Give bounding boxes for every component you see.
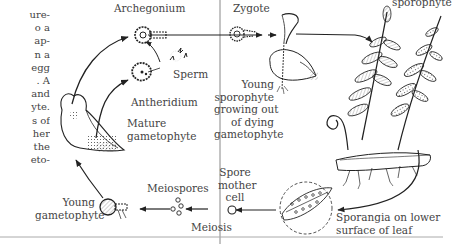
antheridium-drawing <box>132 63 160 81</box>
label-mature-gametophyte: Mature gametophyte <box>127 117 197 142</box>
label-line: Young <box>35 196 95 209</box>
label-young-gametophyte: Young gametophyte <box>35 196 95 221</box>
arrow-gametophyte-to-antheridium <box>96 80 128 138</box>
sporangia-drawing <box>280 182 332 234</box>
label-line: cell <box>218 191 252 204</box>
zygote-drawing <box>230 27 256 41</box>
spore-mother-cell-drawing <box>228 206 236 214</box>
label-meiosis: Meiosis <box>191 221 232 234</box>
label-line: Young <box>214 78 274 91</box>
label-line: Sporangia on lower <box>336 211 440 224</box>
mature-sporophyte-drawing <box>327 6 443 189</box>
label-sperm: Sperm <box>173 68 208 81</box>
label-line: gametophyte <box>35 209 95 222</box>
label-line: gametophyte <box>127 130 197 143</box>
meiospores-drawing <box>171 198 183 215</box>
label-sporangia: Sporangia on lower surface of leaf <box>336 211 440 236</box>
label-archegonium: Archegonium <box>114 2 185 15</box>
sperm-drawing <box>170 48 187 61</box>
label-line: sporophyte <box>214 91 274 104</box>
label-line: growing out <box>214 103 274 116</box>
label-line: gametophyte <box>214 128 274 141</box>
arrow-young-to-mature-gametophyte <box>76 160 103 198</box>
label-spore-mother-cell: Spore mother cell <box>218 166 252 204</box>
young-sporophyte-drawing <box>270 14 318 94</box>
label-line: Spore <box>218 166 252 179</box>
label-meiospores: Meiospores <box>147 182 209 195</box>
arrow-sperm-to-archegonium <box>146 42 160 62</box>
label-antheridium: Antheridium <box>131 96 198 109</box>
arrow-gametophyte-to-archegonium <box>72 37 128 104</box>
label-line: Mature <box>127 117 197 130</box>
label-mature-sporophyte: sporophyte <box>392 0 452 9</box>
label-line: mother <box>218 179 252 192</box>
label-line: surface of leaf <box>336 224 440 237</box>
mature-gametophyte-drawing <box>61 94 124 152</box>
label-line: of dying <box>214 116 274 129</box>
label-zygote: Zygote <box>233 2 270 15</box>
arrow-young-to-mature-sporophyte <box>296 34 372 42</box>
label-young-sporophyte: Young sporophyte growing out of dying ga… <box>214 78 274 141</box>
